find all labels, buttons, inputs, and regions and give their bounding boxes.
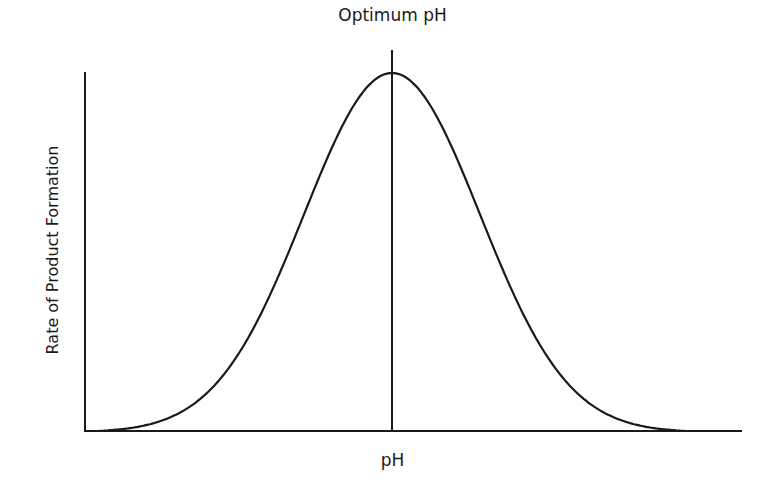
chart-plot — [0, 0, 775, 486]
rate-curve — [98, 73, 720, 431]
